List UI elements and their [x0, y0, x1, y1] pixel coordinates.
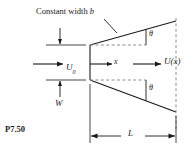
caption-constant-width: Constant width b: [36, 7, 94, 16]
angle-label-upper-theta: θ: [149, 30, 153, 38]
caption-symbol-b: b: [90, 6, 94, 16]
problem-number-label: P7.50: [5, 125, 25, 134]
diagram-canvas: [0, 0, 196, 148]
angle-label-lower-theta: θ: [149, 84, 153, 92]
length-label-L: L: [128, 129, 133, 138]
length-arrowhead-left: [91, 134, 98, 139]
axis-label-x: x: [114, 58, 118, 66]
caption-text: Constant width: [36, 6, 90, 16]
lower-wall: [90, 80, 176, 112]
inlet-velocity-label: U0: [66, 57, 76, 75]
width-label-W: W: [55, 99, 63, 108]
leader-line: [104, 19, 117, 33]
upper-wall: [90, 21, 176, 45]
figure-container: Constant width b U0 x U(x) W L θ θ P7.50: [0, 0, 196, 148]
exit-velocity-label: U(x): [164, 57, 181, 66]
inlet-velocity-subscript: 0: [73, 69, 76, 75]
length-arrowhead-right: [169, 134, 176, 139]
